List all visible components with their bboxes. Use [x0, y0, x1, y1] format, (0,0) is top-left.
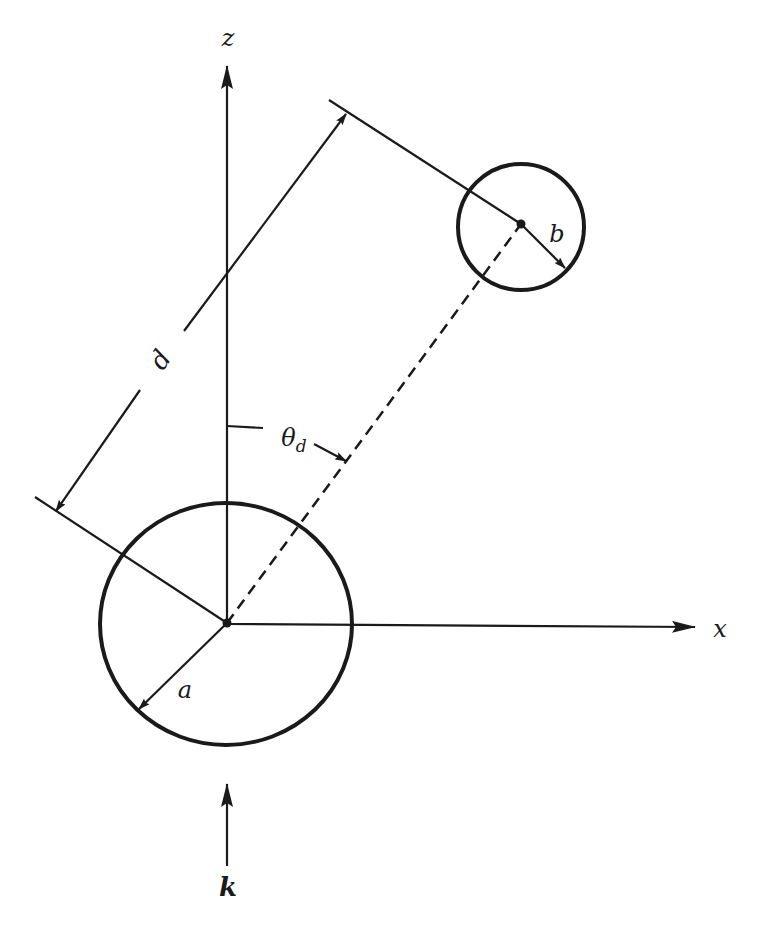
distance-label: d: [143, 344, 177, 375]
two-sphere-diagram: z x d a b θd k: [0, 0, 758, 927]
angle-label: θd: [281, 424, 306, 456]
radius-b-label: b: [549, 220, 564, 248]
angle-pointer-arrow: [314, 444, 346, 461]
center-line-dashed: [227, 224, 521, 623]
x-axis-label: x: [713, 615, 727, 643]
x-axis: [227, 624, 695, 627]
z-axis-label: z: [221, 24, 235, 52]
extension-line-top: [329, 100, 521, 224]
radius-a-label: a: [178, 676, 192, 704]
wave-vector-label: k: [219, 872, 237, 902]
extension-line-bottom: [35, 497, 227, 623]
angle-tick: [227, 426, 263, 428]
